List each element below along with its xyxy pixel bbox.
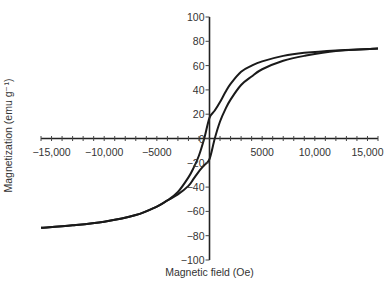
hysteresis-chart: −15,000−10,000−5000500010,00015,00010080… [0, 0, 390, 290]
y-tick-label: −40 [187, 181, 205, 193]
x-tick-label: 15,000 [351, 146, 383, 158]
x-axis-title: Magnetic field (Oe) [165, 266, 254, 278]
y-tick-label: −20 [187, 157, 205, 169]
y-tick-label: −80 [187, 230, 205, 242]
y-tick-label: 40 [193, 84, 205, 96]
y-tick-label: −60 [187, 205, 205, 217]
x-tick-label: −10,000 [85, 146, 123, 158]
y-tick-label: 0 [199, 133, 205, 145]
y-tick-label: 60 [193, 60, 205, 72]
y-axis-title: Magnetization (emu g⁻¹) [2, 79, 14, 193]
y-tick-label: 100 [187, 11, 205, 23]
x-tick-label: −5000 [142, 146, 172, 158]
y-tick-label: −100 [181, 254, 205, 266]
y-tick-label: 20 [193, 108, 205, 120]
x-tick-label: 10,000 [299, 146, 331, 158]
y-tick-label: 80 [193, 35, 205, 47]
x-tick-label: 5000 [250, 146, 274, 158]
x-tick-label: −15,000 [32, 146, 70, 158]
